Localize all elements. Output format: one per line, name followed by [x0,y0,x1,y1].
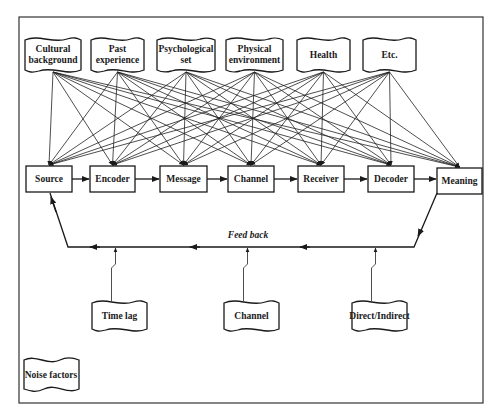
feedback-factor-box: Direct/Indirect [349,248,410,331]
legend-label: Noise factors [25,370,78,380]
process-box: Receiver [298,166,344,192]
process-label: Decoder [374,174,409,184]
process-label: Receiver [303,174,339,184]
factor-box: Physicalenvironment [226,38,283,72]
feedback-loop: Feed back [50,193,437,247]
factor-box: Psychologicalset [157,38,215,72]
diagram-frame [19,17,483,403]
process-box: Message [160,166,207,192]
factor-label: environment [229,55,281,65]
factor-box: Etc. [363,38,416,72]
noise-arrow [372,248,376,301]
factor-label: set [180,55,192,65]
factor-label: Health [310,50,338,60]
process-box: Decoder [368,166,414,192]
process-box: Channel [228,166,274,192]
feedback-label: Feed back [227,230,269,240]
feedback-factor-box: Time lag [92,248,147,331]
process-label: Meaning [442,176,478,186]
process-box: Encoder [90,166,135,192]
process-box: Source [26,166,72,192]
process-label: Message [166,174,200,184]
noise-factors-legend: Noise factors [24,358,79,392]
feedback-factor-box: Channel [224,248,279,331]
factor-label: experience [96,55,139,65]
factor-label: background [29,55,79,65]
noise-arrow [112,248,116,301]
process-box: Meaning [437,168,482,194]
process-label: Encoder [95,174,130,184]
process-label: Source [35,174,63,184]
factor-label: Past [109,44,127,54]
factor-box: Culturalbackground [25,38,81,72]
factor-label: Cultural [36,44,71,54]
factor-boxes: CulturalbackgroundPastexperiencePsycholo… [25,38,416,72]
factor-label: Psychological [159,44,214,54]
feedback-factor-label: Direct/Indirect [349,311,410,321]
noise-arrow [244,248,248,301]
feedback-factor-label: Channel [234,311,269,321]
factor-label: Physical [238,44,272,54]
feedback-factor-label: Time lag [102,311,138,321]
communication-model-diagram: CulturalbackgroundPastexperiencePsycholo… [0,0,501,420]
factor-box: Pastexperience [91,38,144,72]
factor-influence-lines [49,72,460,167]
factor-box: Health [297,38,350,72]
process-label: Channel [234,174,269,184]
process-chain: SourceEncoderMessageChannelReceiverDecod… [26,166,482,194]
feedback-factor-boxes: Time lagChannelDirect/Indirect [92,248,410,331]
factor-label: Etc. [381,50,397,60]
